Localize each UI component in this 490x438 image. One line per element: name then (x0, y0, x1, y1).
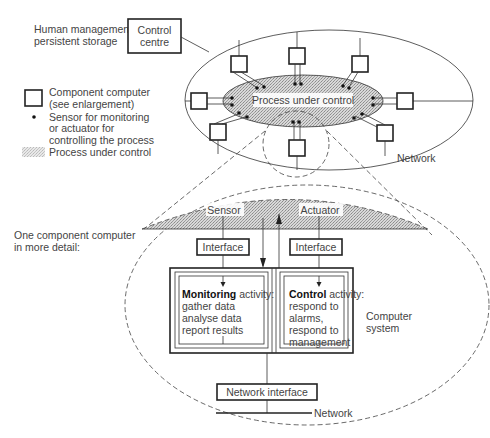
monitoring-item: analyse data (182, 312, 242, 324)
legend-sensor-label-3: controlling the process (49, 134, 154, 146)
process-label: Process under control (252, 94, 354, 106)
actuator-label: Actuator (300, 204, 340, 216)
component-computer (397, 93, 413, 109)
arrow-down-icon (260, 258, 266, 268)
network-label-top: Network (397, 152, 436, 164)
control-system-diagram: Human management, persistent storage Con… (0, 0, 490, 438)
computer-system-label: Computer (366, 310, 413, 322)
component-computer (210, 124, 226, 140)
legend-sensor-dot-icon (32, 115, 36, 119)
control-item: respond to (289, 300, 339, 312)
legend-stipple-swatch (22, 147, 45, 157)
component-computer (352, 56, 368, 72)
component-computer (231, 56, 247, 72)
sensor-label: Sensor (207, 204, 241, 216)
network-label-bottom: Network (314, 407, 353, 419)
control-centre-label-2: centre (140, 36, 169, 48)
detail-caption-2: in more detail: (14, 241, 80, 253)
legend-component-label: Component computer (49, 86, 150, 98)
component-computer-enlarged (289, 140, 305, 156)
component-computer (377, 125, 393, 141)
legend-component-icon (25, 90, 42, 106)
legend-component-label-2: (see enlargement) (49, 98, 134, 110)
control-item: alarms, (289, 312, 323, 324)
control-item: respond to (289, 324, 339, 336)
legend-process-label: Process under control (49, 146, 151, 158)
detail-caption: One component computer (14, 229, 136, 241)
monitoring-title: Monitoring activity: (182, 288, 274, 300)
component-computer (191, 93, 207, 109)
interface-right-label: Interface (296, 241, 337, 253)
network-interface-label: Network interface (226, 386, 308, 398)
control-item: management (289, 336, 350, 348)
computer-system-label-2: system (366, 322, 400, 334)
management-label: Human management, (34, 23, 135, 35)
interface-left-label: Interface (203, 241, 244, 253)
monitoring-item: gather data (182, 300, 235, 312)
component-computer (289, 48, 305, 64)
legend-sensor-label-2: or actuator for (49, 122, 115, 134)
legend: Component computer (see enlargement) Sen… (22, 86, 154, 158)
control-centre-label: Control (138, 24, 172, 36)
management-label-2: persistent storage (34, 35, 118, 47)
process-dome (142, 200, 428, 230)
control-title: Control activity: (289, 288, 364, 300)
monitoring-item: report results (182, 324, 243, 336)
enlargement: Sensor Actuator Interface Interface Moni… (14, 131, 489, 425)
